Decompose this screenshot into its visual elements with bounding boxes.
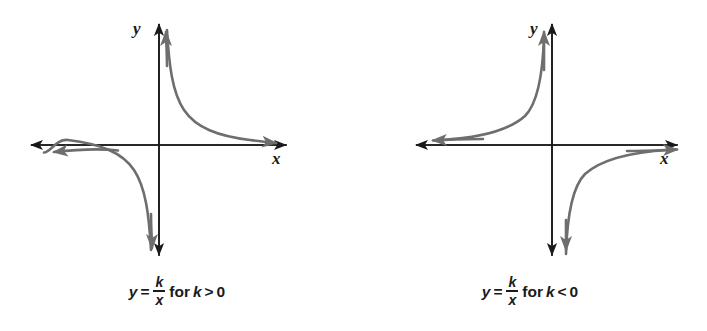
x-axis-label: x [660, 150, 669, 167]
caption-numerator: k [153, 275, 165, 290]
plot-negative-k [353, 0, 707, 290]
caption-equals: = [140, 284, 149, 300]
caption-lhs: y [482, 284, 491, 300]
caption-numerator: k [506, 275, 518, 290]
curve-branch-quadrant-III-tail [54, 149, 118, 152]
curve-branch-quadrant-I [167, 30, 276, 143]
caption-condition-value: 0 [570, 284, 579, 300]
caption-fraction: k x [153, 275, 165, 307]
y-axis-label: y [530, 20, 538, 37]
caption-denominator: x [506, 292, 518, 307]
curve-branch-quadrant-II [441, 36, 544, 140]
caption-positive-k: y = k x for k > 0 [0, 276, 354, 308]
caption-lhs: y [129, 284, 138, 300]
caption-condition-variable: k [193, 284, 202, 300]
curve-branch-quadrant-III [44, 140, 151, 250]
caption-for: for [522, 284, 543, 300]
panel-positive-k: y x y = k x for k > 0 [0, 0, 354, 331]
caption-equals: = [493, 284, 502, 300]
caption-negative-k: y = k x for k < 0 [353, 276, 707, 308]
curve-branch-quadrant-I-up [166, 32, 167, 66]
caption-condition-value: 0 [217, 284, 226, 300]
caption-for: for [169, 284, 190, 300]
x-axis-label: x [272, 150, 281, 167]
curve-branch-quadrant-II-left [433, 139, 483, 141]
caption-fraction: k x [506, 275, 518, 307]
caption-condition-operator: > [205, 284, 214, 300]
reciprocal-function-figure: y x y = k x for k > 0 [0, 0, 707, 331]
curve-branch-quadrant-III-down [151, 214, 152, 248]
plot-positive-k [0, 0, 354, 290]
caption-denominator: x [153, 292, 165, 307]
panel-negative-k: y x y = k x for k < 0 [353, 0, 707, 331]
caption-condition-operator: < [558, 284, 567, 300]
caption-condition-variable: k [546, 284, 555, 300]
y-axis-label: y [133, 20, 141, 37]
curve-branch-quadrant-IV-right [627, 150, 677, 152]
curve-branch-quadrant-IV [566, 150, 669, 254]
